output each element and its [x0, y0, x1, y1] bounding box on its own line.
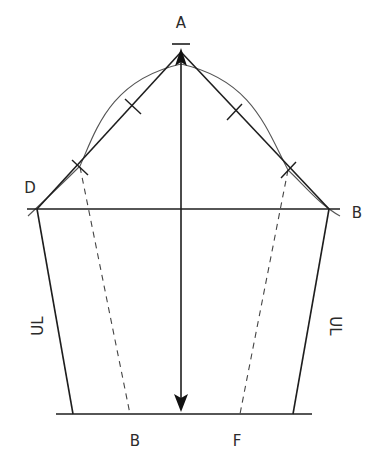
label-apex: A [176, 14, 187, 32]
tick-mark-left-upper [125, 99, 141, 114]
label-left-seam: UL [29, 316, 47, 336]
sleeve-cap-curve [28, 64, 340, 216]
right-dashed-guide [240, 170, 288, 414]
label-bottom-right: F [233, 432, 242, 450]
tick-mark-right-upper [227, 104, 242, 120]
label-right-seam: UL [326, 316, 344, 336]
left-dashed-guide [80, 167, 130, 414]
label-left-point: D [24, 179, 36, 197]
sleeve-pattern-diagram: A D B UL UL B F [0, 0, 371, 461]
right-underarm-seam [293, 209, 329, 414]
left-diagonal-line [37, 52, 181, 209]
label-bottom-left: B [130, 432, 140, 450]
label-right-point: B [352, 204, 362, 222]
left-underarm-seam [37, 209, 73, 414]
right-diagonal-line [181, 52, 329, 209]
